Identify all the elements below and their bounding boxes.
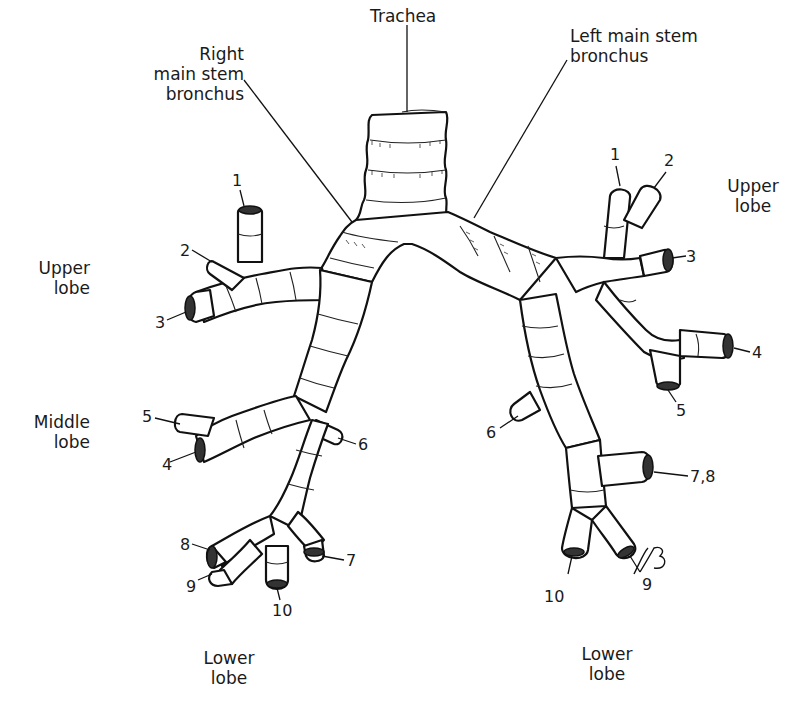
right-main-stem-bronchus-label: Right main stem bronchus <box>148 44 244 104</box>
left-segment-10: 10 <box>544 588 564 606</box>
right-segment-5: 5 <box>142 408 152 426</box>
left-segment-7-8: 7,8 <box>690 468 715 486</box>
left-segment-4: 4 <box>752 344 762 362</box>
left-main-stem-bronchus-label: Left main stem bronchus <box>570 26 698 66</box>
right-segment-10: 10 <box>272 602 292 620</box>
trachea-label: Trachea <box>370 6 436 26</box>
right-segment-3: 3 <box>155 314 165 332</box>
right-segment-9: 9 <box>186 578 196 596</box>
bronchial-tree-illustration <box>0 0 807 714</box>
right-upper-lobe-drawing <box>185 206 326 322</box>
left-segment-9: 9 <box>642 576 652 594</box>
left-upper-lobe-drawing <box>556 186 733 390</box>
left-segment-6: 6 <box>486 424 496 442</box>
right-lower-lobe-label: Lower lobe <box>198 648 260 688</box>
right-upper-lobe-label: Upper lobe <box>24 258 90 298</box>
right-segment-4: 4 <box>162 456 172 474</box>
left-lower-lobe-label: Lower lobe <box>576 644 638 684</box>
right-middle-lobe-label: Middle lobe <box>20 412 90 452</box>
right-segment-1: 1 <box>232 172 242 190</box>
right-segment-6: 6 <box>358 436 368 454</box>
left-segment-2: 2 <box>664 152 674 170</box>
left-segment-3: 3 <box>686 248 696 266</box>
left-upper-lobe-label: Upper lobe <box>722 176 784 216</box>
left-segment-5: 5 <box>676 402 686 420</box>
right-segment-8: 8 <box>180 536 190 554</box>
right-segment-7: 7 <box>346 552 356 570</box>
left-segment-1: 1 <box>610 146 620 164</box>
right-segment-2: 2 <box>180 242 190 260</box>
trachea-drawing <box>356 110 448 220</box>
leader-lines <box>155 25 750 600</box>
